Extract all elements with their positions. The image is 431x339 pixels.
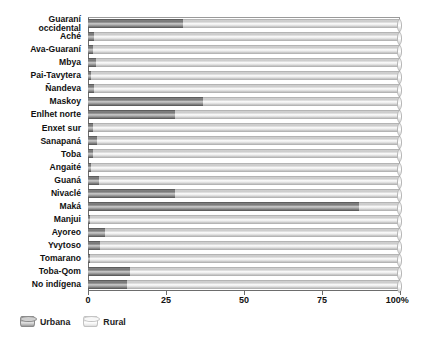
x-axis-tick-label-2: 50 <box>239 295 249 305</box>
bar-segment-urbana <box>88 241 100 250</box>
bar-row <box>88 213 400 226</box>
bar-rows-container <box>88 17 400 291</box>
bar-row <box>88 174 400 187</box>
bar-segment-urbana <box>88 32 94 41</box>
y-axis-label-3: Mbya <box>0 56 85 69</box>
y-axis-label-10: Toba <box>0 147 85 160</box>
y-axis-label-0: Guaraní occidental <box>0 17 85 30</box>
legend-label-urbana: Urbana <box>40 317 70 327</box>
bar-track <box>88 163 400 172</box>
bar-segment-urbana <box>88 267 130 276</box>
bar-segment-rural <box>90 215 400 224</box>
y-axis-label-11: Angaité <box>0 161 85 174</box>
bar-row <box>88 187 400 200</box>
x-axis: 0255075100% <box>88 291 400 313</box>
y-axis-label-16: Ayoreo <box>0 226 85 239</box>
bar-segment-rural <box>94 32 400 41</box>
bar-track <box>88 267 400 276</box>
bar-segment-urbana <box>88 228 105 237</box>
bar-track <box>88 19 400 28</box>
bar-segment-rural <box>93 45 400 54</box>
legend-item-urbana[interactable]: Urbana <box>20 316 70 327</box>
bar-segment-urbana <box>88 149 93 158</box>
bar-segment-urbana <box>88 123 93 132</box>
bar-track <box>88 58 400 67</box>
bar-segment-urbana <box>88 45 93 54</box>
bar-segment-rural <box>183 19 400 28</box>
bar-segment-rural <box>175 189 400 198</box>
legend-item-rural[interactable]: Rural <box>83 316 126 327</box>
bar-segment-rural <box>203 97 400 106</box>
bar-row <box>88 30 400 43</box>
bar-track <box>88 97 400 106</box>
bar-segment-rural <box>91 71 400 80</box>
bar-track <box>88 45 400 54</box>
stacked-bar-chart: Guaraní occidentalAchéAva-GuaraníMbyaPai… <box>0 0 431 339</box>
x-axis-tick-label-3: 75 <box>317 295 327 305</box>
y-axis-label-2: Ava-Guaraní <box>0 43 85 56</box>
bar-segment-rural <box>105 228 400 237</box>
bar-segment-urbana <box>88 202 359 211</box>
bar-row <box>88 56 400 69</box>
y-axis-label-15: Manjui <box>0 213 85 226</box>
y-axis-label-6: Maskoy <box>0 95 85 108</box>
bar-segment-rural <box>93 149 400 158</box>
y-axis-label-5: Ñandeva <box>0 82 85 95</box>
bar-track <box>88 202 400 211</box>
y-axis-label-14: Maká <box>0 200 85 213</box>
cylinder-icon <box>20 316 35 327</box>
bar-row <box>88 82 400 95</box>
bar-row <box>88 43 400 56</box>
bar-segment-urbana <box>88 84 94 93</box>
bar-row <box>88 278 400 291</box>
bar-segment-urbana <box>88 110 175 119</box>
bar-segment-rural <box>127 280 400 289</box>
bar-segment-rural <box>94 84 400 93</box>
bar-segment-urbana <box>88 71 91 80</box>
y-axis-label-4: Pai-Tavytera <box>0 69 85 82</box>
bar-track <box>88 123 400 132</box>
bar-row <box>88 134 400 147</box>
bar-segment-urbana <box>88 136 97 145</box>
bar-row <box>88 252 400 265</box>
bar-row <box>88 95 400 108</box>
bar-segment-urbana <box>88 280 127 289</box>
bar-segment-rural <box>130 267 400 276</box>
bar-segment-rural <box>96 58 400 67</box>
cylinder-icon <box>83 316 98 327</box>
x-axis-tick-label-0: 0 <box>85 295 90 305</box>
bar-row <box>88 108 400 121</box>
bar-segment-rural <box>90 254 400 263</box>
bar-segment-rural <box>99 176 400 185</box>
bar-row <box>88 69 400 82</box>
x-axis-tick-label-1: 25 <box>161 295 171 305</box>
bar-segment-urbana <box>88 163 91 172</box>
bar-track <box>88 254 400 263</box>
bar-row <box>88 265 400 278</box>
bar-segment-urbana <box>88 254 90 263</box>
y-axis-label-19: Toba-Qom <box>0 265 85 278</box>
bar-track <box>88 176 400 185</box>
bar-row <box>88 226 400 239</box>
bar-segment-urbana <box>88 215 90 224</box>
bar-row <box>88 200 400 213</box>
bar-segment-urbana <box>88 189 175 198</box>
y-axis-label-7: Enlhet norte <box>0 108 85 121</box>
x-axis-tick-label-4: 100% <box>386 295 409 305</box>
bar-track <box>88 32 400 41</box>
y-axis-label-9: Sanapaná <box>0 134 85 147</box>
bar-row <box>88 161 400 174</box>
bar-track <box>88 215 400 224</box>
bar-segment-urbana <box>88 176 99 185</box>
bar-row <box>88 121 400 134</box>
bar-segment-urbana <box>88 19 183 28</box>
bar-track <box>88 71 400 80</box>
bar-segment-urbana <box>88 58 96 67</box>
y-axis-label-18: Tomarano <box>0 252 85 265</box>
bar-row <box>88 17 400 30</box>
y-axis-label-13: Nivaclé <box>0 187 85 200</box>
bar-track <box>88 136 400 145</box>
bar-track <box>88 84 400 93</box>
y-axis-label-12: Guaná <box>0 174 85 187</box>
bar-row <box>88 147 400 160</box>
